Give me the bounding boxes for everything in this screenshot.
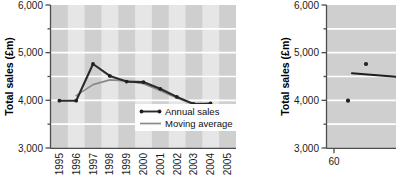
main-x-tick-labels: 1995 1996 1997 1998 1999 2000 2001 2002 … xyxy=(54,153,233,176)
main-y-tick-labels: 6,000 5,000 4,000 3,000 xyxy=(18,0,43,154)
main-xtick-1995: 1995 xyxy=(54,153,65,176)
main-xtick-2004: 2004 xyxy=(205,153,216,176)
main-chart: 6,000 5,000 4,000 3,000 Total sales (£m)… xyxy=(3,0,236,175)
secondary-xtick-60: 60 xyxy=(328,156,340,167)
main-ytick-1: 5,000 xyxy=(18,47,43,58)
main-y-axis xyxy=(46,5,51,149)
main-xtick-2003: 2003 xyxy=(188,153,199,176)
figure-container: 6,000 5,000 4,000 3,000 Total sales (£m)… xyxy=(0,0,396,187)
main-y-axis-title: Total sales (£m) xyxy=(3,37,15,116)
secondary-y-axis-title: Total sales (£m) xyxy=(279,37,291,116)
secondary-y-tick-labels: 6,000 5,000 4,000 3,000 xyxy=(294,0,319,154)
secondary-ytick-3: 3,000 xyxy=(294,143,319,154)
secondary-ytick-0: 6,000 xyxy=(294,0,319,11)
main-xtick-2000: 2000 xyxy=(138,153,149,176)
legend-label-moving-average: Moving average xyxy=(165,118,233,129)
main-xtick-1996: 1996 xyxy=(71,153,82,176)
main-xtick-1998: 1998 xyxy=(104,153,115,176)
main-xtick-2005: 2005 xyxy=(222,153,233,176)
main-ytick-0: 6,000 xyxy=(18,0,43,11)
secondary-ytick-2: 4,000 xyxy=(294,95,319,106)
legend-label-annual-sales: Annual sales xyxy=(165,106,220,117)
main-ytick-2: 4,000 xyxy=(18,95,43,106)
charts-svg: 6,000 5,000 4,000 3,000 Total sales (£m)… xyxy=(0,0,396,187)
secondary-y-axis xyxy=(322,5,327,149)
main-legend: Annual sales Moving average xyxy=(135,104,236,131)
secondary-x-axis xyxy=(327,148,396,153)
secondary-chart: 6,000 5,000 4,000 3,000 Total sales (£m)… xyxy=(279,0,396,167)
secondary-ytick-1: 5,000 xyxy=(294,47,319,58)
main-xtick-1997: 1997 xyxy=(88,153,99,176)
main-xtick-2002: 2002 xyxy=(172,153,183,176)
main-xtick-2001: 2001 xyxy=(155,153,166,176)
main-xtick-1999: 1999 xyxy=(121,153,132,176)
main-ytick-3: 3,000 xyxy=(18,143,43,154)
